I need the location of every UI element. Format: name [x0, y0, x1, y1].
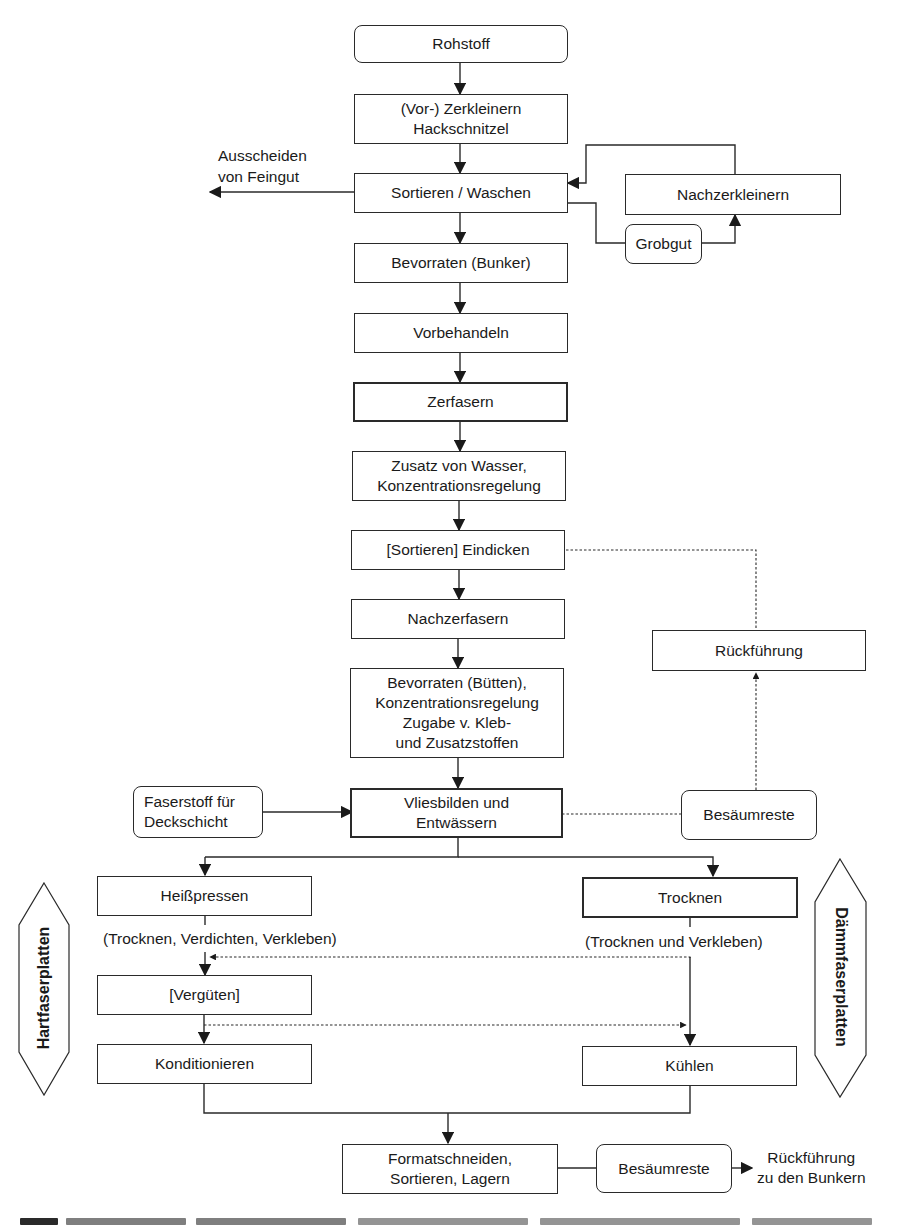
badge-hartfaserplatten: Hartfaserplatten	[35, 913, 53, 1063]
node-konditionieren: Konditionieren	[97, 1044, 312, 1084]
node-verguten: [Vergüten]	[97, 975, 312, 1015]
node-sortieren-waschen: Sortieren / Waschen	[354, 173, 568, 213]
arrow-grobgut-nachzerkleinern	[701, 215, 735, 243]
note-hartfaser: (Trocknen, Verdichten, Verkleben)	[103, 929, 337, 949]
label-ausscheiden-feingut: Ausscheiden von Feingut	[218, 145, 307, 187]
node-vliesbilden: Vliesbilden und Entwässern	[350, 788, 563, 838]
node-zerkleinern: (Vor-) Zerkleinern Hackschnitzel	[354, 94, 568, 144]
line-merge	[204, 1083, 690, 1113]
node-besaeumreste-upper: Besäumreste	[681, 790, 817, 840]
figure-caption-clipped	[0, 1216, 900, 1225]
node-faserstoff-deckschicht: Faserstoff für Deckschicht	[133, 786, 263, 838]
line-sortieren-grobgut	[566, 203, 625, 243]
node-formatschneiden: Formatschneiden, Sortieren, Lagern	[342, 1144, 558, 1194]
dotted-eindicken-rueckfuehrung	[566, 550, 756, 630]
flowchart-canvas: Rohstoff (Vor-) Zerkleinern Hackschnitze…	[0, 0, 900, 1225]
node-nachzerkleinern: Nachzerkleinern	[625, 174, 841, 215]
node-heisspressen: Heißpressen	[97, 876, 312, 916]
label-rueckfuehrung-bunker: Rückführung zu den Bunkern	[757, 1148, 866, 1188]
node-trocknen: Trocknen	[582, 877, 798, 918]
node-rohstoff: Rohstoff	[354, 25, 568, 63]
node-rueckfuehrung: Rückführung	[652, 630, 866, 671]
node-eindicken: [Sortieren] Eindicken	[351, 530, 565, 570]
node-kuehlen: Kühlen	[582, 1046, 797, 1086]
node-grobgut: Grobgut	[625, 224, 702, 264]
note-daemmfaser: (Trocknen und Verkleben)	[585, 932, 763, 952]
node-bevorraten-bunker: Bevorraten (Bunker)	[354, 243, 568, 283]
node-vorbehandeln: Vorbehandeln	[354, 313, 568, 353]
badge-daemmfaserplatten: Dämmfaserplatten	[832, 902, 850, 1052]
node-nachzerfasern: Nachzerfasern	[351, 599, 565, 639]
node-besaeumreste-lower: Besäumreste	[596, 1144, 732, 1193]
line-vliesbilden-split	[205, 838, 458, 857]
node-zerfasern: Zerfasern	[353, 382, 568, 422]
node-zusatz-wasser: Zusatz von Wasser, Konzentrationsregelun…	[352, 451, 566, 501]
dotted-trocknen-verguten	[210, 957, 690, 958]
node-bevorraten-buetten: Bevorraten (Bütten), Konzentrationsregel…	[350, 668, 564, 758]
arrow-to-trocknen	[458, 857, 713, 876]
